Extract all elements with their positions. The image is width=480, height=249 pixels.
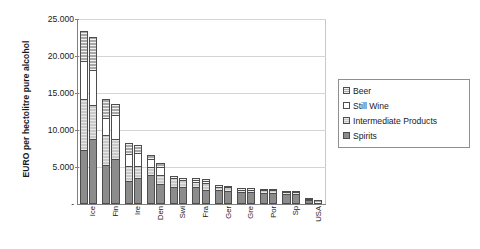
bar-segment xyxy=(134,145,142,155)
legend-swatch-still-wine xyxy=(343,102,350,109)
bar-segment xyxy=(102,165,110,204)
bar-segment xyxy=(156,163,164,168)
x-axis-tick-labels: IceFinIreDenSwiFraGerGrePorSpUSA xyxy=(77,206,325,249)
bar-segment xyxy=(111,115,119,139)
bar-segment xyxy=(247,188,255,190)
bar-segment xyxy=(305,198,313,200)
bar-segment xyxy=(147,167,155,175)
legend-swatch-beer xyxy=(343,87,350,94)
x-tick-label: Ire xyxy=(134,206,142,246)
y-tick-label: - xyxy=(28,200,74,209)
bar-segment xyxy=(237,188,245,190)
bar-segment xyxy=(192,178,200,181)
bar-segment xyxy=(292,191,300,193)
bar-segment xyxy=(134,153,142,167)
bar-segment xyxy=(89,37,97,71)
x-tick-label: Fin xyxy=(112,206,120,246)
bar-segment xyxy=(202,179,210,182)
y-tick-label: 25.000 xyxy=(28,15,74,24)
bar-segment xyxy=(202,183,210,190)
bar-segment xyxy=(237,192,245,204)
bar-segment xyxy=(215,190,223,204)
bar-segment xyxy=(125,143,133,155)
legend-label: Still Wine xyxy=(353,101,389,111)
bar-segment xyxy=(89,139,97,204)
y-tick-label: 5.000 xyxy=(28,163,74,172)
bar-segment xyxy=(192,187,200,204)
bar-segment xyxy=(179,187,187,204)
bar-segment xyxy=(80,61,88,100)
x-tick-label: Den xyxy=(157,206,165,246)
bar-segment xyxy=(224,186,232,189)
bar-segment xyxy=(156,184,164,204)
bar-segment xyxy=(89,105,97,140)
bar-segment xyxy=(282,194,290,204)
bar-segment xyxy=(260,193,268,204)
legend-label: Spirits xyxy=(353,131,377,141)
bar-segment xyxy=(102,99,110,119)
bar-segment xyxy=(170,178,178,188)
legend-item: Beer xyxy=(343,83,465,98)
legend: BeerStill WineIntermediate ProductsSpiri… xyxy=(338,79,470,148)
bar-segment xyxy=(170,176,178,179)
y-tick-label: 10.000 xyxy=(28,126,74,135)
bar-segment xyxy=(147,155,155,160)
legend-item: Still Wine xyxy=(343,98,465,113)
bar-segment xyxy=(156,175,164,185)
bar-segment xyxy=(147,175,155,204)
bar-segment xyxy=(111,159,119,204)
bar-segment xyxy=(247,192,255,204)
y-axis-tick-labels: -5.00010.00015.00020.00025.000 xyxy=(28,0,74,249)
legend-swatch-intermediate-products xyxy=(343,117,350,124)
x-tick-label: Por xyxy=(270,206,278,246)
bar-segment xyxy=(111,104,119,116)
legend-item: Intermediate Products xyxy=(343,113,465,128)
x-tick-label: Ice xyxy=(89,206,97,246)
bar-segment xyxy=(125,154,133,167)
bar-segment xyxy=(125,166,133,182)
legend-item: Spirits xyxy=(343,128,465,143)
bar-segment xyxy=(292,194,300,204)
bar-segment xyxy=(269,189,277,191)
bar-segment xyxy=(80,99,88,150)
legend-label: Beer xyxy=(353,86,371,96)
bar-segment xyxy=(179,178,187,181)
bar-segment xyxy=(102,118,110,136)
bar-series-group xyxy=(78,19,326,204)
legend-swatch-spirits xyxy=(343,132,350,139)
bar-segment xyxy=(170,187,178,204)
bar-segment xyxy=(134,166,142,179)
bar-segment xyxy=(269,193,277,204)
bar-segment xyxy=(260,189,268,191)
bar-segment xyxy=(102,135,110,166)
x-tick-label: Swi xyxy=(179,206,187,246)
bar-segment xyxy=(125,181,133,204)
bar-segment xyxy=(147,159,155,168)
bar-segment xyxy=(80,150,88,204)
bar-segment xyxy=(89,70,97,106)
x-tick-label: Fra xyxy=(202,206,210,246)
bar-segment xyxy=(215,185,223,188)
bar-segment xyxy=(156,167,164,176)
y-tick-label: 20.000 xyxy=(28,52,74,61)
bar-segment xyxy=(202,190,210,204)
bar-segment xyxy=(80,31,88,62)
bar-segment xyxy=(314,200,322,204)
bar-segment xyxy=(134,178,142,204)
bar-chart: EURO per hectolitre pure alcohol -5.0001… xyxy=(0,0,480,249)
x-tick-label: Ger xyxy=(225,206,233,246)
x-tick-label: Gre xyxy=(247,206,255,246)
x-tick-label: USA xyxy=(315,206,323,246)
bar-segment xyxy=(224,191,232,204)
legend-label: Intermediate Products xyxy=(353,116,437,126)
bar-segment xyxy=(282,191,290,193)
bar-segment xyxy=(179,180,187,188)
plot-area xyxy=(77,19,326,205)
x-tick-label: Sp xyxy=(292,206,300,246)
bar-segment xyxy=(111,139,119,161)
y-tick-label: 15.000 xyxy=(28,89,74,98)
